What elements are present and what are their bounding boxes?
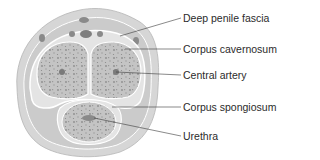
label-corpus-spongiosum: Corpus spongiosum — [183, 101, 276, 113]
dorsal-artery-right — [97, 31, 103, 37]
label-corpus-cavernosum: Corpus cavernosum — [183, 43, 277, 55]
deep-dorsal-vein — [80, 30, 92, 38]
label-central-artery: Central artery — [183, 69, 247, 81]
urethra-lumen — [82, 115, 96, 121]
central-artery-left — [59, 69, 65, 75]
superficial-dorsal-vein — [79, 17, 89, 23]
lateral-vessel-left — [39, 34, 45, 42]
dorsal-artery-left — [69, 31, 75, 37]
label-urethra: Urethra — [183, 130, 218, 142]
label-deep-penile-fascia: Deep penile fascia — [183, 12, 269, 24]
corpus-spongiosum — [62, 102, 116, 142]
